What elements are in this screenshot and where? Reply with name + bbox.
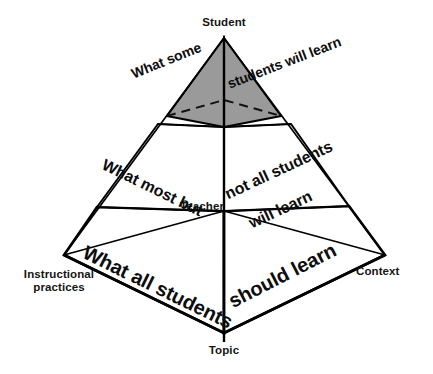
vertex-label-topic: Topic — [194, 344, 254, 357]
pyramid-diagram: Student Teacher Instructional practices … — [0, 0, 433, 374]
vertex-label-instructional-practices: Instructional practices — [6, 268, 112, 294]
vertex-label-student: Student — [188, 16, 260, 29]
vertex-label-context: Context — [356, 265, 428, 278]
